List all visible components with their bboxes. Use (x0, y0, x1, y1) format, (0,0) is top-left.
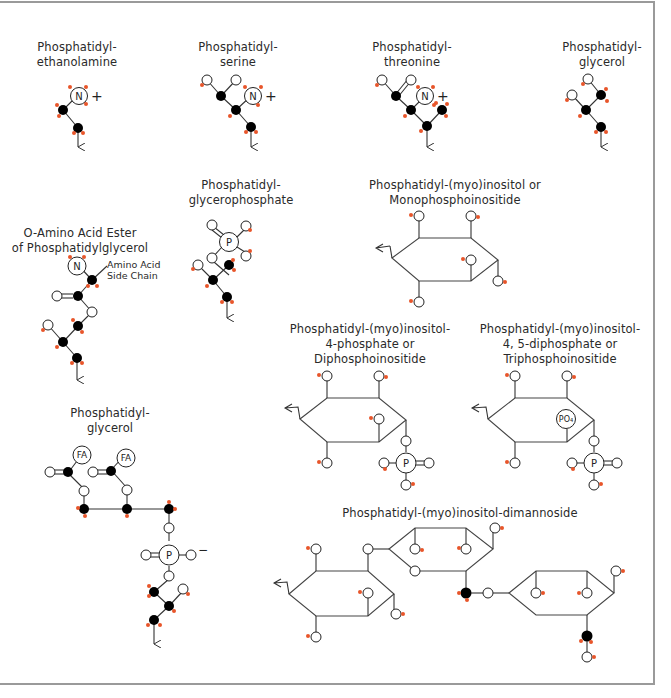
structure-phosphatidylinositol-dimannoside (274, 523, 625, 662)
svg-text:N: N (421, 91, 428, 102)
structure-phosphatidylinositol-45-diphosphate: PO₄ P (472, 371, 622, 490)
svg-text:N: N (249, 91, 256, 102)
svg-text:FA: FA (77, 450, 88, 460)
structure-phosphatidylthreonine: N + (375, 75, 449, 147)
svg-text:+: + (265, 88, 277, 104)
svg-text:+: + (437, 88, 449, 104)
structure-amino-acid-ester: N (41, 255, 107, 380)
structure-phosphatidylglycerol-bottom: FA FA P − (45, 446, 208, 644)
nitrogen-atom: N (75, 91, 82, 102)
molecular-diagrams: N + N + (0, 0, 671, 698)
structure-phosphatidylglycerol-top (565, 74, 609, 147)
svg-text:P: P (226, 237, 232, 248)
structure-phosphatidylinositol (376, 211, 507, 307)
svg-text:P: P (591, 458, 597, 469)
structure-phosphatidylglycerophosphate: P (191, 220, 252, 318)
svg-text:P: P (166, 550, 172, 561)
structure-phosphatidylinositol-4-phosphate: P (285, 371, 434, 490)
structure-phosphatidylserine: N + (200, 75, 277, 147)
svg-text:−: − (198, 543, 208, 557)
svg-text:+: + (91, 88, 103, 104)
structure-phosphatidylethanolamine: N + (55, 85, 103, 147)
svg-text:P: P (403, 458, 409, 469)
svg-text:FA: FA (121, 453, 132, 463)
svg-text:N: N (73, 261, 80, 272)
po4-group: PO₄ (559, 415, 573, 424)
